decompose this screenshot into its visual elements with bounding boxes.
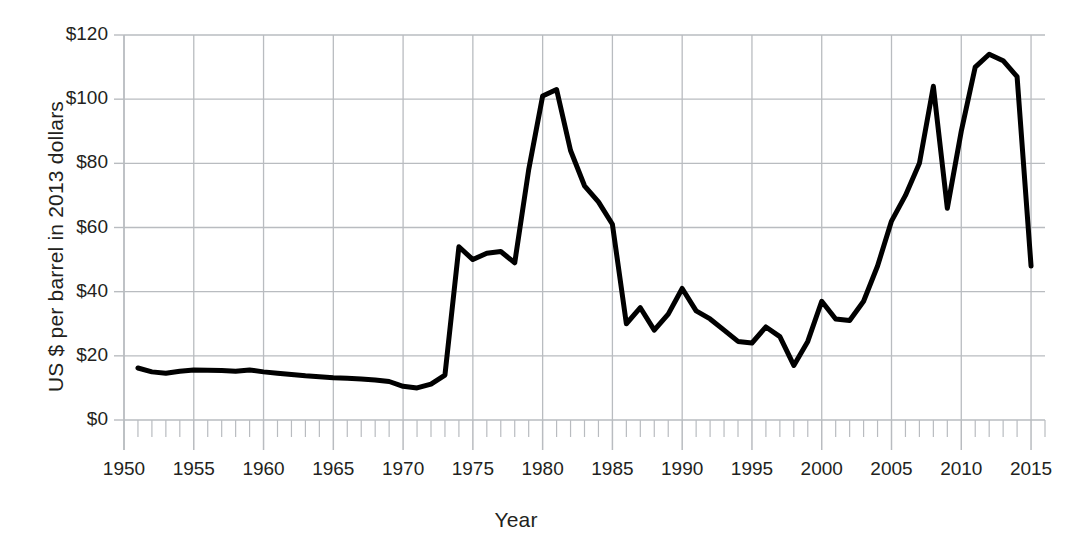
x-tick-label: 1950 (84, 458, 164, 480)
axis-ticks-group (114, 35, 1045, 450)
y-tick-label: $60 (76, 216, 108, 238)
x-tick-label: 1980 (503, 458, 583, 480)
x-tick-label: 1970 (363, 458, 443, 480)
y-tick-label: $20 (76, 344, 108, 366)
y-axis-title: US $ per barrel in 2013 dollars (44, 101, 68, 392)
y-tick-label: $0 (87, 408, 108, 430)
y-tick-label: $100 (66, 87, 108, 109)
x-tick-label: 2005 (852, 458, 932, 480)
x-tick-label: 2010 (921, 458, 1001, 480)
x-tick-label: 1990 (642, 458, 722, 480)
x-tick-label: 2000 (782, 458, 862, 480)
oil-price-chart: $0$20$40$60$80$100$120 19501955196019651… (0, 0, 1068, 548)
data-series-group (138, 54, 1031, 388)
y-tick-label: $120 (66, 23, 108, 45)
x-tick-label: 1975 (433, 458, 513, 480)
gridlines-group (124, 35, 1045, 420)
x-tick-label: 2015 (991, 458, 1068, 480)
y-tick-label: $40 (76, 280, 108, 302)
x-tick-label: 1995 (712, 458, 792, 480)
y-tick-label: $80 (76, 151, 108, 173)
price-line (138, 54, 1031, 388)
x-tick-label: 1960 (224, 458, 304, 480)
x-tick-label: 1985 (572, 458, 652, 480)
x-tick-label: 1955 (154, 458, 234, 480)
x-tick-label: 1965 (293, 458, 373, 480)
x-axis-title: Year (0, 508, 1050, 532)
axis-lines-group (124, 35, 1045, 450)
